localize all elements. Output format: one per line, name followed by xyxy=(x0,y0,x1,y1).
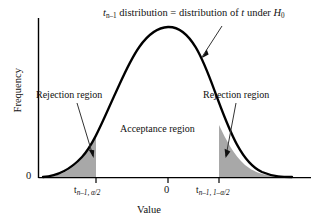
x-tick-label-center: 0 xyxy=(164,185,169,196)
y-axis-label: Frequency xyxy=(13,55,24,125)
title-leader-line xyxy=(202,26,222,57)
figure-title: tn–1 distribution = distribution of t un… xyxy=(103,8,285,20)
x-axis-label: Value xyxy=(137,205,161,216)
title-middle-text: distribution = distribution of xyxy=(117,7,242,18)
x-tick-label-left: tn–1, α/2 xyxy=(74,186,100,197)
tick-right-subscript: n–1, 1–α/2 xyxy=(199,189,230,197)
title-leader-arrowhead xyxy=(202,50,209,59)
title-under-text: under xyxy=(244,7,273,18)
rejection-region-right-label: Rejection region xyxy=(203,90,269,100)
x-tick-label-right: tn–1, 1–α/2 xyxy=(196,186,230,197)
acceptance-region-label: Acceptance region xyxy=(120,124,195,134)
title-t-subscript: n–1 xyxy=(106,12,117,20)
distribution-curve xyxy=(43,27,292,177)
rejection-region-left-label: Rejection region xyxy=(36,90,102,100)
title-h-symbol: H xyxy=(273,7,281,18)
distribution-plot xyxy=(0,0,325,224)
title-h-subscript: 0 xyxy=(281,12,285,20)
left-rejection-leader-line xyxy=(77,103,93,156)
y-axis-origin-label: 0 xyxy=(26,171,31,182)
tick-left-subscript: n–1, α/2 xyxy=(77,189,101,197)
left-rejection-region-shading xyxy=(43,137,96,177)
t-distribution-figure: tn–1 distribution = distribution of t un… xyxy=(0,0,325,224)
